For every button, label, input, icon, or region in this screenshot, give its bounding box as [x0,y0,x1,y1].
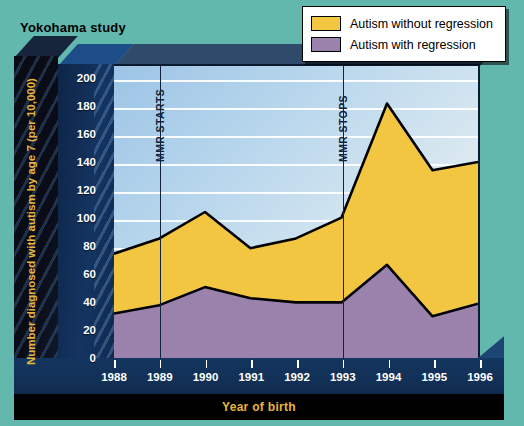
chart-legend: Autism without regression Autism with re… [302,6,506,62]
series-areas [114,66,478,358]
y-axis-tick-label: 0 [90,352,96,364]
x-axis-tick [343,360,345,368]
legend-item-with-regression: Autism with regression [311,34,493,55]
x-axis-tick-label: 1996 [467,371,493,383]
x-axis-tick-label: 1989 [147,371,173,383]
y-axis-tick-label: 60 [83,268,96,280]
x-axis-tick [160,360,162,368]
x-axis-tick [434,360,436,368]
y-axis-title: Number diagnosed with autism by age 7 (p… [24,57,39,387]
x-axis-tick-label: 1990 [193,371,219,383]
legend-swatch-with-regression [311,37,341,52]
x-axis-tick [297,360,299,368]
legend-label-without-regression: Autism without regression [350,17,493,31]
y-axis-tick-label: 40 [83,296,96,308]
y-axis-tick-label: 120 [77,184,96,196]
x-axis-tick-label: 1994 [376,371,402,383]
y-axis-tick-label: 100 [77,212,96,224]
legend-label-with-regression: Autism with regression [350,38,476,52]
x-axis-tick [251,360,253,368]
x-axis-tick-label: 1992 [284,371,310,383]
y-axis-tick-label: 180 [77,100,96,112]
x-axis-tick-label: 1995 [421,371,447,383]
legend-item-without-regression: Autism without regression [311,13,493,34]
y-axis-tick-label: 200 [77,72,96,84]
x-axis-tick-label: 1988 [101,371,127,383]
chart-root: Yokohama study Autism without regression… [0,0,524,426]
legend-swatch-without-regression [311,16,341,31]
x-axis-tick [480,360,482,368]
x-axis-tick [206,360,208,368]
y-axis-tick-label: 160 [77,128,96,140]
y-axis-tick-label: 20 [83,324,96,336]
page-title: Yokohama study [20,20,126,35]
annotation-label-mmr-stops: MMR STOPS [337,95,349,162]
x-axis-tick [114,360,116,368]
y-axis-tick-labels: 020406080100120140160180200 [58,64,112,358]
x-axis-title: Year of birth [222,400,296,414]
x-axis-tick-label: 1993 [330,371,356,383]
y-axis-tick-label: 140 [77,156,96,168]
x-axis-tick [389,360,391,368]
plot-area: MMR STARTSMMR STOPS [114,64,480,358]
x-axis-title-strip: Year of birth [14,394,504,420]
y-axis-tick-label: 80 [83,240,96,252]
annotation-label-mmr-starts: MMR STARTS [154,89,166,162]
x-axis-tick-label: 1991 [238,371,264,383]
